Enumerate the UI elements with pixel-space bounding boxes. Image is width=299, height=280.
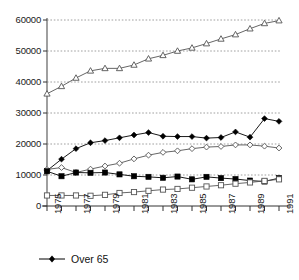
- chart-figure: 0100002000030000400005000060000 19751977…: [0, 0, 299, 280]
- data-point-marker: [276, 145, 282, 151]
- data-point-marker: [247, 180, 252, 185]
- x-axis-tick-label: 1989: [255, 194, 266, 214]
- data-point-marker: [218, 144, 224, 150]
- data-point-marker: [204, 174, 209, 179]
- y-axis-tick-label: 10000: [16, 169, 41, 180]
- data-point-marker: [218, 183, 223, 188]
- data-point-marker: [58, 83, 64, 89]
- x-axis-tick-label: 1985: [197, 194, 208, 214]
- data-point-marker: [160, 133, 166, 139]
- data-point-marker: [44, 193, 49, 198]
- data-point-marker: [146, 188, 151, 193]
- data-point-marker: [44, 91, 50, 97]
- data-point-marker: [160, 187, 165, 192]
- data-point-marker: [73, 193, 78, 198]
- data-point-marker: [204, 135, 210, 141]
- x-axis-tick-label: 1981: [139, 194, 150, 214]
- data-point-marker: [59, 174, 64, 179]
- x-axis-tick-label: 1977: [81, 194, 92, 214]
- data-point-marker: [88, 170, 93, 175]
- y-axis-tick-label: 0: [36, 200, 41, 211]
- data-point-marker: [117, 135, 123, 141]
- chart-legend: Over 65: [38, 253, 108, 265]
- data-point-marker: [160, 149, 166, 155]
- y-axis-tick-label: 40000: [16, 76, 41, 87]
- data-point-marker: [175, 148, 181, 154]
- data-point-marker: [73, 170, 78, 175]
- data-point-marker: [44, 169, 49, 174]
- data-point-marker: [102, 170, 107, 175]
- data-point-marker: [131, 189, 136, 194]
- data-point-marker: [117, 160, 123, 166]
- legend-label-over-65: Over 65: [71, 253, 108, 265]
- data-point-marker: [233, 129, 239, 135]
- data-point-marker: [189, 177, 194, 182]
- data-point-marker: [276, 17, 282, 23]
- data-point-marker: [175, 134, 181, 140]
- data-point-marker: [204, 144, 210, 150]
- data-point-marker: [131, 174, 136, 179]
- data-point-marker: [117, 172, 122, 177]
- x-axis-tick-label: 1983: [168, 194, 179, 214]
- data-point-marker: [59, 165, 65, 171]
- data-point-marker: [218, 135, 224, 141]
- data-point-marker: [276, 177, 281, 182]
- data-point-marker: [146, 174, 151, 179]
- data-point-marker: [175, 186, 180, 191]
- data-point-marker: [160, 175, 165, 180]
- data-point-marker: [218, 176, 223, 181]
- data-point-marker: [204, 184, 209, 189]
- data-point-marker: [102, 163, 108, 169]
- legend-marker-over-65: [38, 253, 66, 265]
- data-point-marker: [247, 142, 253, 148]
- data-point-marker: [175, 174, 180, 179]
- data-point-marker: [73, 75, 79, 81]
- data-point-marker: [189, 185, 194, 190]
- data-point-marker: [262, 178, 267, 183]
- data-point-marker: [131, 156, 137, 162]
- data-point-marker: [146, 152, 152, 158]
- data-point-marker: [88, 140, 94, 146]
- x-axis-tick-label: 1987: [226, 194, 237, 214]
- x-axis-tick-label: 1979: [110, 194, 121, 214]
- data-point-marker: [189, 146, 195, 152]
- x-axis-tick-label: 1991: [284, 194, 295, 214]
- data-point-marker: [233, 181, 238, 186]
- y-axis-tick-label: 60000: [16, 14, 41, 25]
- data-point-marker: [189, 134, 195, 140]
- y-axis-tick-label: 30000: [16, 107, 41, 118]
- data-point-marker: [146, 130, 152, 136]
- data-point-marker: [233, 142, 239, 148]
- x-axis-tick-label: 1975: [52, 194, 63, 214]
- data-point-marker: [276, 118, 282, 124]
- data-point-marker: [131, 132, 137, 138]
- y-axis-tick-label: 20000: [16, 138, 41, 149]
- data-point-marker: [102, 192, 107, 197]
- data-point-marker: [102, 138, 108, 144]
- line-chart-plot: [0, 0, 299, 280]
- y-axis-tick-label: 50000: [16, 45, 41, 56]
